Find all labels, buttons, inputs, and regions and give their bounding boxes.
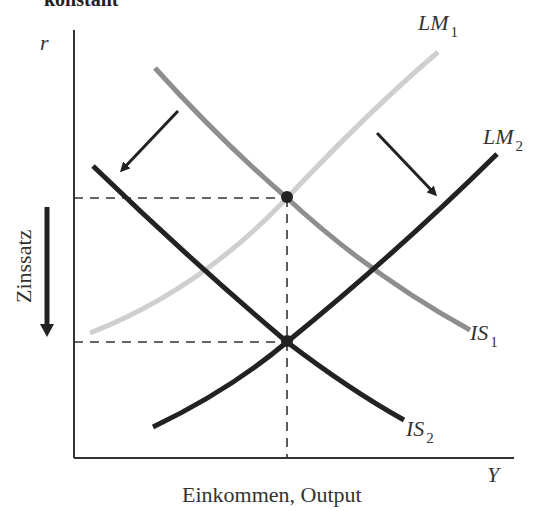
- equilibrium-point-1: [281, 191, 293, 203]
- lm2-label: LM2: [483, 124, 523, 150]
- x-axis-symbol: Y: [487, 462, 499, 488]
- lm1-label: LM1: [418, 10, 458, 36]
- lm2-curve: [153, 154, 497, 427]
- y-axis-label: Zinssatz: [11, 243, 37, 303]
- is1-curve: [155, 68, 470, 330]
- x-axis-label: Einkommen, Output: [182, 482, 362, 508]
- y-axis-symbol: r: [40, 30, 49, 56]
- lm1-curve: [90, 52, 438, 333]
- is2-label: IS2: [406, 416, 434, 442]
- is2-curve: [93, 166, 404, 420]
- is-shift-arrow-icon: [122, 111, 178, 170]
- interest-down-arrowhead-icon: [40, 324, 54, 337]
- lm-shift-arrow-icon: [377, 133, 435, 194]
- is1-label: IS1: [470, 320, 498, 346]
- equilibrium-point-2: [281, 335, 293, 347]
- is-lm-diagram: [0, 0, 534, 511]
